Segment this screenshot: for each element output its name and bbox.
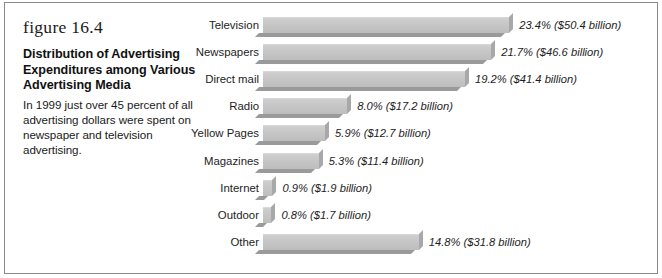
bar-row: Newspapers21.7% ($46.6 billion)	[5, 44, 658, 64]
data-label: 21.7% ($46.6 billion)	[501, 45, 603, 60]
bar-face	[263, 98, 347, 114]
category-label-internet: Internet	[109, 180, 259, 197]
bar-bottom-face	[255, 141, 321, 145]
bar-face	[263, 71, 465, 87]
category-label-yellow-pages: Yellow Pages	[109, 125, 259, 142]
category-label-newspapers: Newspapers	[109, 44, 259, 61]
category-label-direct-mail: Direct mail	[109, 71, 259, 88]
bar-right-face	[491, 40, 495, 60]
data-label: 23.4% ($50.4 billion)	[519, 18, 621, 33]
bar-row: Yellow Pages5.9% ($12.7 billion)	[5, 125, 658, 145]
bar-row: Other14.8% ($31.8 billion)	[5, 234, 658, 254]
bar-right-face	[419, 230, 423, 250]
bar-bottom-face	[255, 33, 505, 37]
category-label-radio: Radio	[109, 98, 259, 115]
bar-bottom-face	[255, 250, 415, 254]
bar-bottom-face	[255, 87, 461, 91]
category-label-magazines: Magazines	[109, 153, 259, 170]
data-label: 8.0% ($17.2 billion)	[357, 99, 453, 114]
figure-frame: figure 16.4 Distribution of Advertising …	[4, 2, 658, 274]
bar-bottom-face	[255, 114, 343, 118]
category-label-television: Television	[109, 17, 259, 34]
data-label: 14.8% ($31.8 billion)	[429, 235, 531, 250]
bar-direct-mail	[259, 71, 469, 91]
bar-bottom-face	[255, 60, 487, 64]
bar-internet	[259, 180, 276, 200]
bar-right-face	[347, 94, 351, 114]
bar-row: Television23.4% ($50.4 billion)	[5, 17, 658, 37]
bar-chart: Television23.4% ($50.4 billion)Newspaper…	[5, 3, 658, 274]
bar-radio	[259, 98, 351, 118]
bar-row: Radio8.0% ($17.2 billion)	[5, 98, 658, 118]
bar-face	[263, 44, 491, 60]
bar-yellow-pages	[259, 125, 329, 145]
data-label: 0.9% ($1.9 billion)	[282, 181, 372, 196]
bar-face	[263, 17, 509, 33]
bar-bottom-face	[255, 223, 267, 227]
bar-bottom-face	[255, 196, 268, 200]
bar-bottom-face	[255, 169, 315, 173]
bar-face	[263, 153, 319, 169]
data-label: 5.9% ($12.7 billion)	[335, 126, 431, 141]
data-label: 5.3% ($11.4 billion)	[329, 154, 424, 169]
bar-newspapers	[259, 44, 495, 64]
bar-magazines	[259, 153, 323, 173]
bar-row: Magazines5.3% ($11.4 billion)	[5, 153, 658, 173]
category-label-other: Other	[109, 234, 259, 251]
bar-right-face	[465, 67, 469, 87]
bar-other	[259, 234, 423, 254]
bar-right-face	[272, 176, 276, 196]
bar-face	[263, 125, 325, 141]
bar-row: Outdoor0.8% ($1.7 billion)	[5, 207, 658, 227]
bar-row: Internet0.9% ($1.9 billion)	[5, 180, 658, 200]
bar-right-face	[319, 149, 323, 169]
bar-outdoor	[259, 207, 275, 227]
bar-television	[259, 17, 513, 37]
bar-right-face	[509, 13, 513, 33]
data-label: 0.8% ($1.7 billion)	[281, 208, 371, 223]
bar-face	[263, 234, 419, 250]
bar-right-face	[271, 203, 275, 223]
bar-row: Direct mail19.2% ($41.4 billion)	[5, 71, 658, 91]
data-label: 19.2% ($41.4 billion)	[475, 72, 577, 87]
bar-right-face	[325, 121, 329, 141]
category-label-outdoor: Outdoor	[109, 207, 259, 224]
